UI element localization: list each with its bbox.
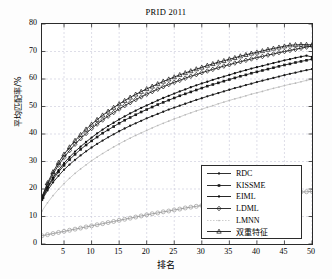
data-point (179, 90, 181, 92)
legend-label: KISSME (233, 181, 265, 190)
data-point (239, 75, 242, 78)
data-point (294, 72, 296, 74)
data-point (250, 67, 252, 69)
y-tick-label: 70 (19, 46, 37, 55)
data-point (217, 92, 219, 94)
data-point (113, 146, 115, 148)
x-tick-label: 50 (301, 247, 321, 256)
data-point (173, 118, 175, 120)
data-point (223, 101, 225, 103)
data-point (156, 103, 159, 106)
data-point (90, 146, 92, 148)
data-point (234, 72, 236, 74)
data-point (245, 69, 247, 71)
data-point (251, 93, 253, 95)
data-point (135, 109, 137, 111)
data-point (85, 141, 87, 143)
data-point (96, 156, 98, 158)
data-point (151, 127, 153, 129)
data-point (272, 66, 275, 69)
y-tick-label: 80 (19, 18, 37, 27)
data-point (52, 195, 54, 197)
data-point (146, 130, 148, 132)
data-point (228, 78, 231, 81)
data-point (300, 60, 303, 63)
data-point (217, 77, 219, 79)
x-tick-label: 35 (218, 247, 238, 256)
y-tick-label: 0 (19, 238, 37, 247)
data-point (239, 70, 241, 72)
data-point (256, 71, 259, 74)
data-point (107, 129, 110, 132)
data-point (85, 150, 87, 152)
data-point (179, 116, 181, 118)
legend-item[interactable]: 双重特征 (202, 226, 301, 238)
data-point (283, 59, 285, 61)
data-point (96, 136, 99, 139)
data-point (234, 87, 236, 89)
data-point (305, 69, 307, 71)
legend-marker-dot-light-icon (205, 215, 233, 226)
data-point (80, 168, 82, 170)
data-point (212, 83, 215, 86)
x-tick-label: 40 (246, 247, 266, 256)
data-point (140, 132, 142, 134)
x-tick-label: 45 (273, 247, 293, 256)
data-point (135, 122, 137, 124)
data-point (189, 91, 192, 94)
data-point (206, 81, 208, 83)
data-point (267, 89, 269, 91)
legend-item[interactable]: LMNN (202, 214, 301, 226)
data-point (85, 144, 88, 147)
data-point (272, 62, 274, 64)
data-point (206, 85, 209, 88)
data-point (262, 91, 264, 93)
data-point (289, 58, 291, 60)
legend-marker-square-icon (205, 180, 233, 191)
data-point (272, 77, 274, 79)
data-point (173, 97, 176, 100)
legend-label: 双重特征 (233, 226, 268, 237)
y-tick-label: 20 (19, 183, 37, 192)
data-point (284, 85, 286, 87)
data-point (283, 74, 285, 76)
data-point (273, 88, 275, 90)
data-point (295, 82, 297, 84)
data-point (195, 99, 197, 101)
data-point (306, 80, 308, 82)
legend-item[interactable]: RDC (202, 168, 301, 180)
legend-marker-diamond-icon (205, 203, 233, 214)
x-tick-label: 25 (163, 247, 183, 256)
data-point (157, 125, 159, 127)
data-point (135, 135, 137, 137)
data-point (79, 148, 82, 151)
data-point (118, 143, 120, 145)
data-point (178, 94, 181, 97)
data-point (112, 133, 114, 135)
legend-item[interactable]: KISSME (202, 180, 301, 192)
data-point (151, 106, 154, 109)
data-point (218, 184, 221, 187)
data-point (107, 149, 109, 151)
data-point (107, 136, 109, 138)
data-point (212, 94, 214, 96)
data-point (294, 57, 296, 59)
data-point (300, 56, 302, 58)
data-point (112, 122, 114, 124)
data-point (256, 81, 258, 83)
data-point (239, 86, 241, 88)
data-point (157, 99, 159, 101)
x-tick-label: 20 (136, 247, 156, 256)
data-point (47, 202, 49, 204)
data-point (267, 78, 269, 80)
data-point (129, 137, 131, 139)
data-point (101, 139, 103, 141)
legend-item[interactable]: LDML (202, 203, 301, 215)
data-point (234, 98, 236, 100)
legend-item[interactable]: EIML (202, 191, 301, 203)
data-point (201, 82, 203, 84)
data-point (201, 108, 203, 110)
data-point (168, 120, 170, 122)
legend-label: LMNN (233, 216, 260, 225)
y-tick-label: 10 (19, 211, 37, 220)
